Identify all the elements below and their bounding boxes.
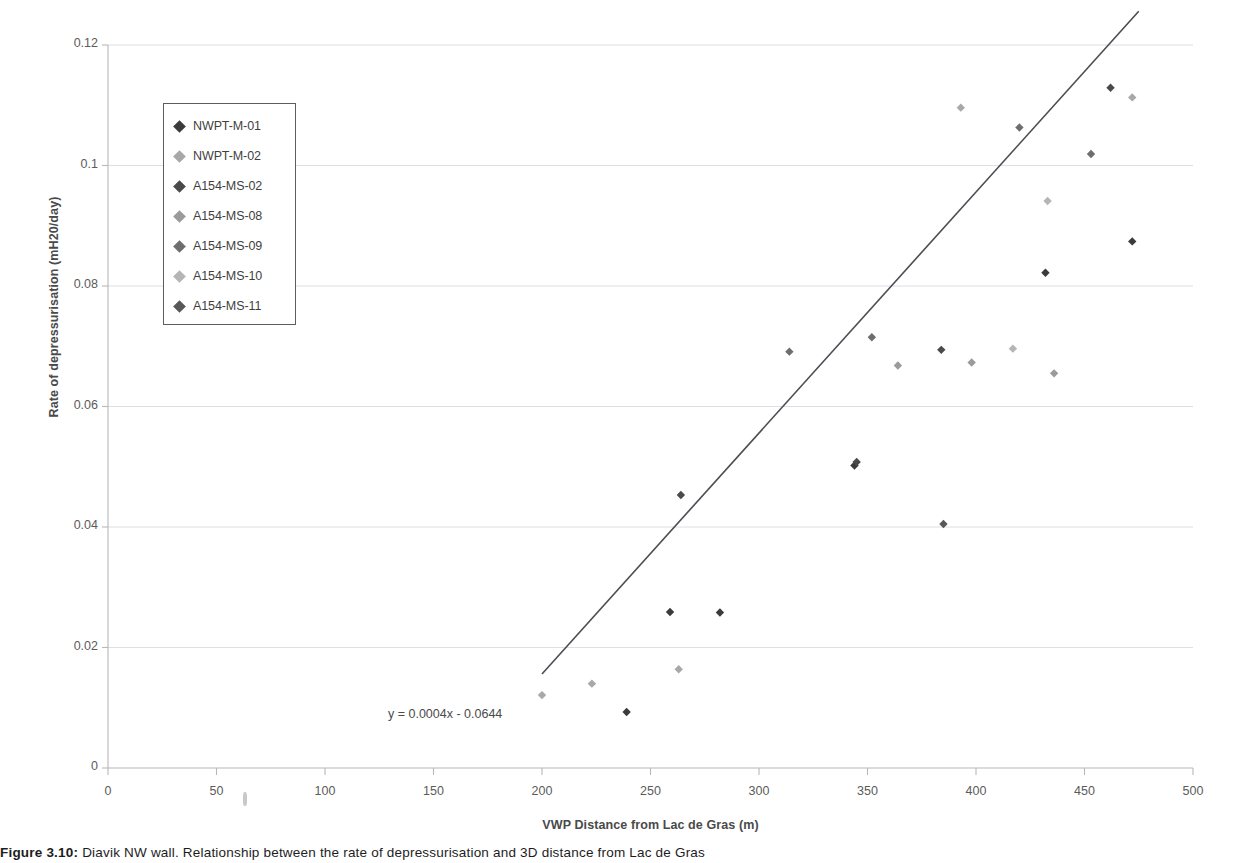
legend-marker-icon: [173, 270, 186, 283]
legend-marker-icon: [173, 240, 186, 253]
x-tick-label: 200: [502, 784, 582, 798]
y-tick-label: 0: [30, 759, 98, 773]
x-tick-label: 150: [394, 784, 474, 798]
legend-item[interactable]: A154-MS-08: [164, 201, 295, 231]
caption-figure-number: Figure 3.10:: [0, 845, 78, 860]
x-tick-label: 400: [936, 784, 1016, 798]
x-axis-title: VWP Distance from Lac de Gras (m): [108, 818, 1193, 832]
legend-item[interactable]: NWPT-M-01: [164, 111, 295, 141]
y-tick-label: 0.1: [30, 157, 98, 171]
y-tick-label: 0.02: [30, 639, 98, 653]
legend-item[interactable]: A154-MS-09: [164, 231, 295, 261]
legend-label: A154-MS-02: [193, 179, 262, 193]
scan-artifact: [243, 792, 247, 806]
figure-caption: Figure 3.10: Diavik NW wall. Relationshi…: [0, 845, 1241, 860]
legend-item[interactable]: NWPT-M-02: [164, 141, 295, 171]
legend-marker-icon: [173, 120, 186, 133]
data-points: [538, 84, 1137, 717]
x-tick-label: 300: [719, 784, 799, 798]
x-tick-label: 450: [1045, 784, 1125, 798]
legend-marker-icon: [173, 150, 186, 163]
legend-label: A154-MS-08: [193, 209, 262, 223]
legend-label: NWPT-M-01: [193, 119, 261, 133]
x-tick-label: 250: [611, 784, 691, 798]
caption-body: Diavik NW wall. Relationship between the…: [78, 845, 705, 860]
trendline: [542, 11, 1139, 674]
x-tick-label: 350: [828, 784, 908, 798]
y-tick-label: 0.06: [30, 398, 98, 412]
legend-item[interactable]: A154-MS-11: [164, 291, 295, 321]
y-tick-label: 0.12: [30, 36, 98, 50]
legend-marker-icon: [173, 180, 186, 193]
legend-label: NWPT-M-02: [193, 149, 261, 163]
x-tick-label: 0: [68, 784, 148, 798]
legend-marker-icon: [173, 210, 186, 223]
y-tick-label: 0.04: [30, 518, 98, 532]
legend-marker-icon: [173, 300, 186, 313]
y-tick-label: 0.08: [30, 277, 98, 291]
legend-label: A154-MS-11: [193, 299, 261, 313]
x-tick-label: 100: [285, 784, 365, 798]
legend-label: A154-MS-09: [193, 239, 262, 253]
figure-container: Rate of depressurisation (mH20/day) VWP …: [0, 0, 1241, 863]
legend-label: A154-MS-10: [193, 269, 262, 283]
x-tick-label: 500: [1153, 784, 1233, 798]
trendline-equation-label: y = 0.0004x - 0.0644: [388, 707, 502, 721]
legend-item[interactable]: A154-MS-10: [164, 261, 295, 291]
y-axis-title: Rate of depressurisation (mH20/day): [47, 157, 61, 457]
legend: NWPT-M-01NWPT-M-02A154-MS-02A154-MS-08A1…: [163, 103, 296, 325]
legend-item[interactable]: A154-MS-02: [164, 171, 295, 201]
